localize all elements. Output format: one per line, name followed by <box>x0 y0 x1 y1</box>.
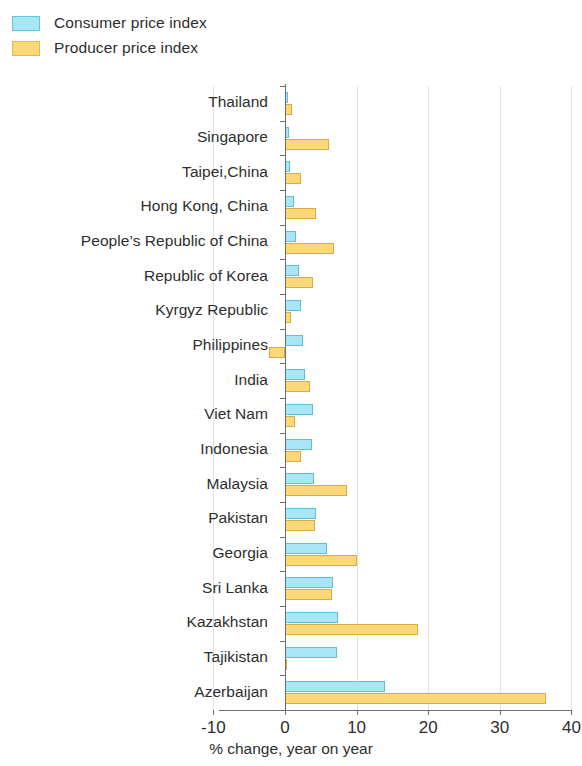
gridline <box>357 86 358 710</box>
bar-cpi <box>285 404 313 415</box>
category-tick <box>280 294 285 295</box>
category-label: Pakistan <box>208 509 268 527</box>
category-label: Azerbaijan <box>194 683 268 701</box>
category-labels: ThailandSingaporeTaipei,ChinaHong Kong, … <box>0 0 268 766</box>
bar-ppi <box>285 451 301 462</box>
chart-figure: Consumer price index Producer price inde… <box>0 0 582 766</box>
x-tick-mark <box>571 710 572 715</box>
gridline <box>571 86 572 710</box>
category-label: Kazakhstan <box>187 613 269 631</box>
bar-cpi <box>285 439 312 450</box>
x-axis-title: % change, year on year <box>0 740 582 758</box>
bar-cpi <box>285 473 314 484</box>
category-tick <box>280 398 285 399</box>
bar-cpi <box>285 369 305 380</box>
category-tick <box>280 467 285 468</box>
bar-ppi <box>285 104 292 115</box>
category-label: People’s Republic of China <box>81 232 268 250</box>
x-tick-mark <box>500 710 501 715</box>
category-tick <box>280 329 285 330</box>
category-tick <box>280 155 285 156</box>
x-tick-label: 0 <box>280 718 289 738</box>
x-tick-label: 20 <box>419 718 438 738</box>
bar-ppi <box>285 416 295 427</box>
x-axis-line <box>219 710 571 711</box>
bar-ppi <box>285 139 329 150</box>
x-tick-label: 10 <box>347 718 366 738</box>
category-label: Thailand <box>208 93 268 111</box>
bar-cpi <box>285 647 337 658</box>
category-tick <box>280 259 285 260</box>
category-label: Hong Kong, China <box>141 197 268 215</box>
category-label: Viet Nam <box>204 405 268 423</box>
bar-cpi <box>285 196 294 207</box>
category-label: Singapore <box>197 128 268 146</box>
category-label: Malaysia <box>206 475 268 493</box>
category-tick <box>280 571 285 572</box>
bar-ppi <box>285 173 301 184</box>
bar-cpi <box>285 508 316 519</box>
x-tick-label: 40 <box>562 718 581 738</box>
category-tick <box>280 225 285 226</box>
category-tick <box>280 433 285 434</box>
bar-ppi <box>285 624 418 635</box>
category-label: Tajikistan <box>204 648 268 666</box>
category-label: Kyrgyz Republic <box>155 301 268 319</box>
category-label: Republic of Korea <box>144 267 268 285</box>
category-label: Indonesia <box>200 440 268 458</box>
bar-cpi <box>285 681 385 692</box>
bar-cpi <box>285 231 296 242</box>
gridline <box>428 86 429 710</box>
bar-ppi <box>285 243 334 254</box>
bar-cpi <box>285 335 303 346</box>
category-label: Sri Lanka <box>202 579 268 597</box>
category-tick <box>280 502 285 503</box>
bar-ppi <box>285 277 313 288</box>
bar-cpi <box>285 577 333 588</box>
category-label: Taipei,China <box>182 163 268 181</box>
bar-cpi <box>285 612 338 623</box>
gridline <box>500 86 501 710</box>
bar-cpi <box>285 300 301 311</box>
x-tick-label: 30 <box>490 718 509 738</box>
category-tick <box>280 190 285 191</box>
bar-ppi <box>285 485 347 496</box>
bar-cpi <box>285 265 299 276</box>
bar-ppi <box>285 520 315 531</box>
bar-cpi <box>285 543 327 554</box>
x-tick-mark <box>285 710 286 715</box>
category-tick <box>280 606 285 607</box>
bar-ppi <box>285 555 357 566</box>
category-tick <box>280 675 285 676</box>
x-tick-mark <box>428 710 429 715</box>
x-tick-mark <box>357 710 358 715</box>
category-tick <box>280 537 285 538</box>
bar-ppi <box>285 589 332 600</box>
category-label: India <box>234 371 268 389</box>
category-tick <box>280 363 285 364</box>
category-tick <box>280 86 285 87</box>
bar-ppi <box>285 208 316 219</box>
category-label: Philippines <box>192 336 268 354</box>
bar-ppi <box>285 381 310 392</box>
bar-ppi <box>285 693 546 704</box>
plot-area: -10010203040 ThailandSingaporeTaipei,Chi… <box>0 0 582 766</box>
bar-ppi <box>269 347 285 358</box>
category-tick <box>280 121 285 122</box>
zero-axis-line <box>285 84 286 710</box>
category-label: Georgia <box>213 544 269 562</box>
category-tick <box>280 641 285 642</box>
